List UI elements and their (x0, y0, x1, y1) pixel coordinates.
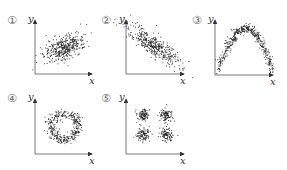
scatter-plots-canvas (0, 0, 287, 170)
scatter-points (32, 15, 274, 144)
